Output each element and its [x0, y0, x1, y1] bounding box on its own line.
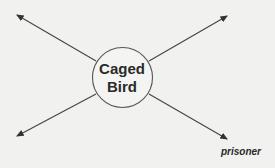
branch-label-bottom-right: prisoner	[221, 146, 261, 157]
arrow-bottom-left	[17, 94, 96, 136]
center-label-line2: Bird	[92, 78, 152, 96]
arrow-top-right	[149, 16, 227, 61]
arrow-bottom-right	[149, 94, 227, 139]
center-label-line1: Caged	[92, 60, 152, 78]
arrow-top-left	[17, 15, 96, 61]
center-label: Caged Bird	[92, 60, 152, 96]
